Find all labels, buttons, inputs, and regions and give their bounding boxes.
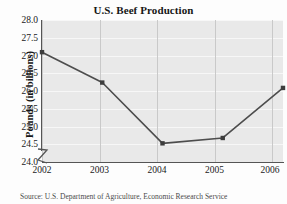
x-tick-label: 2003	[83, 165, 117, 175]
y-axis-line	[41, 20, 42, 151]
gridline-horizontal	[42, 38, 283, 39]
y-tick-label: 27.5	[8, 34, 38, 43]
gridline-vertical	[215, 20, 216, 163]
gridline-horizontal	[42, 73, 283, 74]
source-note: Source: U.S. Department of Agriculture, …	[20, 192, 227, 201]
chart-title: U.S. Beef Production	[0, 4, 287, 16]
axis-break-icon	[35, 148, 51, 165]
x-axis-line	[42, 162, 284, 163]
plot-area	[42, 20, 283, 163]
x-tick-label: 2005	[198, 165, 232, 175]
gridline-horizontal	[42, 56, 283, 57]
y-tick-label: 24.5	[8, 140, 38, 149]
gridline-horizontal	[42, 144, 283, 145]
y-tick-label: 28.0	[8, 16, 38, 25]
y-tick-label: 26.5	[8, 69, 38, 78]
gridline-vertical	[100, 20, 101, 163]
chart-figure: U.S. Beef Production Pounds (in billions…	[0, 0, 287, 204]
y-tick-label: 27.0	[8, 52, 38, 61]
x-tick-label: 2006	[253, 165, 287, 175]
y-tick-label: 26.0	[8, 87, 38, 96]
gridline-horizontal	[42, 20, 283, 21]
gridline-horizontal	[42, 91, 283, 92]
y-tick-label: 25.0	[8, 123, 38, 132]
gridline-horizontal	[42, 127, 283, 128]
gridline-vertical	[157, 20, 158, 163]
gridline-horizontal	[42, 109, 283, 110]
y-tick-label: 25.5	[8, 105, 38, 114]
gridline-vertical	[272, 20, 273, 163]
x-tick-label: 2002	[25, 165, 59, 175]
x-tick-label: 2004	[140, 165, 174, 175]
